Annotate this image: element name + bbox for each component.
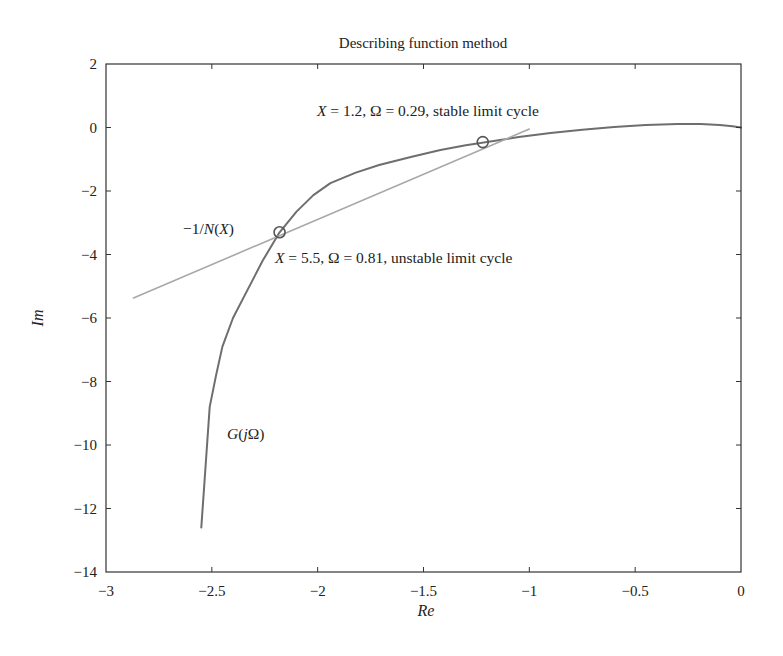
- y-axis-ticks: 20−2−4−6−8−10−12−14: [74, 56, 741, 580]
- x-axis-ticks: −3−2.5−2−1.5−1−0.50: [98, 64, 745, 599]
- y-tick-label: −14: [74, 564, 98, 580]
- y-tick-label: 2: [90, 56, 98, 72]
- annotations: X = 1.2, Ω = 0.29, stable limit cycleX =…: [183, 102, 539, 443]
- annotation-neg-inv-n: −1/N(X): [183, 220, 234, 238]
- chart-title: Describing function method: [339, 35, 508, 51]
- y-axis-label: Im: [29, 310, 46, 328]
- x-tick-label: −1.5: [410, 583, 437, 599]
- nyquist-plot: Describing function method −3−2.5−2−1.5−…: [0, 0, 783, 656]
- annotation-g-jomega: G(jΩ): [227, 425, 264, 443]
- y-tick-label: −6: [81, 310, 97, 326]
- x-tick-label: −2: [310, 583, 326, 599]
- plot-markers: [274, 137, 488, 238]
- y-tick-label: −8: [81, 374, 97, 390]
- x-tick-label: −2.5: [198, 583, 225, 599]
- y-tick-label: 0: [90, 120, 98, 136]
- annotation-unstable: X = 5.5, Ω = 0.81, unstable limit cycle: [274, 249, 512, 266]
- g-jomega-curve: [201, 124, 741, 528]
- x-tick-label: −0.5: [622, 583, 649, 599]
- plot-frame: [106, 64, 741, 572]
- x-tick-label: 0: [737, 583, 745, 599]
- x-tick-label: −1: [521, 583, 537, 599]
- chart-container: Describing function method −3−2.5−2−1.5−…: [0, 0, 783, 656]
- y-tick-label: −2: [81, 183, 97, 199]
- y-tick-label: −4: [81, 247, 97, 263]
- x-axis-label: Re: [417, 602, 435, 619]
- y-tick-label: −12: [74, 501, 97, 517]
- x-tick-label: −3: [98, 583, 114, 599]
- annotation-stable: X = 1.2, Ω = 0.29, stable limit cycle: [316, 102, 539, 119]
- y-tick-label: −10: [74, 437, 97, 453]
- neg-inverse-describing-function-line: [134, 129, 530, 298]
- plot-series: [134, 124, 742, 528]
